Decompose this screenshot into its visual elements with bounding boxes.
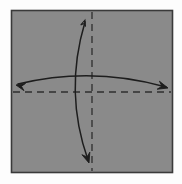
diagram-canvas: [0, 0, 182, 184]
origami-diagram: [0, 0, 182, 184]
